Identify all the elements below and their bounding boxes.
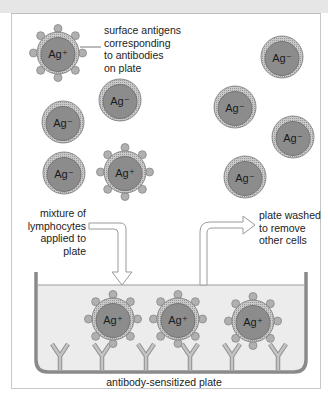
- ag-negative-cell: Ag⁻: [42, 101, 84, 143]
- ag-negative-cell: Ag⁻: [261, 36, 303, 78]
- surface-antigen-icon: [121, 144, 129, 152]
- surface-antigen-icon: [174, 291, 182, 299]
- ag-negative-cell: Ag⁻: [214, 86, 256, 128]
- cell-label: Ag⁻: [53, 117, 72, 129]
- cell-label: Ag⁺: [243, 316, 262, 328]
- surface-antigen-icon: [134, 315, 142, 323]
- surface-antigen-icon: [146, 168, 154, 176]
- surface-antigen-icon: [54, 74, 62, 82]
- washed-label: plate washed to remove other cells: [259, 209, 321, 247]
- ag-negative-cell: Ag⁻: [272, 116, 314, 158]
- surface-antigen-icon: [225, 317, 233, 325]
- surface-antigen-icon: [30, 49, 38, 57]
- cell-label: Ag⁻: [54, 168, 73, 180]
- surface-antigen-icon: [109, 291, 117, 299]
- cell-label: Ag⁻: [110, 95, 129, 107]
- surface-antigen-icon: [85, 315, 93, 323]
- surface-antigen-icon: [54, 25, 62, 33]
- arrow-applied: [89, 223, 132, 285]
- cell-label: Ag⁻: [272, 52, 291, 64]
- surface-antigen-icon: [249, 293, 257, 301]
- cell-label: Ag⁺: [48, 48, 67, 60]
- ag-negative-cell: Ag⁻: [43, 152, 85, 194]
- surface-antigen-icon: [150, 315, 158, 323]
- surface-antigen-icon: [79, 49, 87, 57]
- cell-label: Ag⁻: [235, 172, 254, 184]
- cell-label: Ag⁻: [283, 132, 302, 144]
- ag-positive-cell: Ag⁺: [150, 291, 207, 348]
- plate-label: antibody-sensitized plate: [0, 376, 328, 389]
- cell-label: Ag⁺: [115, 167, 134, 179]
- ag-positive-cell: Ag⁺: [30, 25, 87, 82]
- ag-positive-cell: Ag⁺: [225, 293, 282, 350]
- ag-negative-cell: Ag⁻: [99, 79, 141, 121]
- surface-antigens-label: surface antigens corresponding to antibo…: [104, 24, 181, 74]
- surface-antigen-icon: [249, 342, 257, 350]
- ag-positive-cell: Ag⁺: [97, 144, 154, 201]
- ag-positive-cell: Ag⁺: [85, 291, 142, 348]
- surface-antigen-icon: [174, 340, 182, 348]
- surface-antigen-icon: [121, 193, 129, 201]
- cell-label: Ag⁺: [103, 314, 122, 326]
- cell-label: Ag⁻: [225, 102, 244, 114]
- surface-antigen-icon: [109, 340, 117, 348]
- mixture-label: mixture of lymphocytes applied to plate: [16, 207, 86, 257]
- surface-antigen-icon: [274, 317, 282, 325]
- arrow-washed: [200, 216, 255, 285]
- surface-antigen-icon: [199, 315, 207, 323]
- surface-antigen-icon: [97, 168, 105, 176]
- ag-negative-cell: Ag⁻: [224, 156, 266, 198]
- cell-label: Ag⁺: [168, 314, 187, 326]
